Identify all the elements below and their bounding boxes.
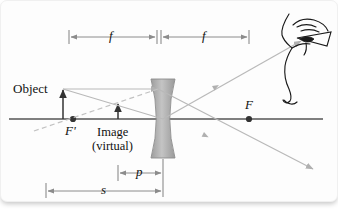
image-label-line2: (virtual) xyxy=(92,139,133,154)
focal-right-label: F xyxy=(245,97,253,113)
dimension-focal-left xyxy=(69,30,157,44)
optics-ray-diagram xyxy=(1,1,337,201)
image-label-line1: Image xyxy=(97,125,128,140)
focal-point-right xyxy=(246,116,252,122)
image-distance-label: p xyxy=(136,164,143,180)
ray-arrowhead-lower xyxy=(202,132,210,140)
ray-center-incident xyxy=(63,89,163,119)
focal-left-label: F' xyxy=(65,123,76,139)
object-distance-label: s xyxy=(101,182,106,198)
object-label: Object xyxy=(13,81,48,97)
ray-parallel-virtual-extension xyxy=(31,89,158,132)
figure-card: Object F' F Image (virtual) f f p s xyxy=(0,0,338,202)
ray-center-refracted xyxy=(163,41,301,119)
eye-sketch xyxy=(282,14,331,104)
focal-length-left-label: f xyxy=(109,28,113,44)
focal-length-right-label: f xyxy=(202,28,206,44)
